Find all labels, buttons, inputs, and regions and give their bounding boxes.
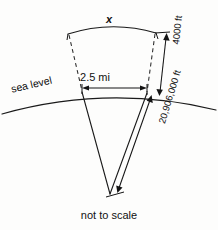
wedge-side-right <box>110 93 147 194</box>
height-tick-top <box>155 32 170 33</box>
height-arrow-bottom <box>156 89 163 96</box>
chord-label: 2.5 mi <box>80 72 110 83</box>
diagram-canvas <box>0 0 218 230</box>
arc-top-label: x <box>106 14 112 25</box>
arc-top-right-tick <box>156 33 158 39</box>
wedge-side-left <box>82 92 110 194</box>
chord-arrow-left <box>82 85 89 90</box>
radius-tick-apex <box>106 192 124 197</box>
height-arrow-top <box>163 33 170 41</box>
figure-caption: not to scale <box>81 210 137 221</box>
figure-root: x 2.5 mi sea level 4000 ft 20,906,000 ft… <box>0 0 218 230</box>
arc-top-left-tick <box>67 34 68 40</box>
dashed-side-right <box>147 34 155 92</box>
height-dimension-line <box>160 38 166 92</box>
arc-sea-level <box>2 98 216 114</box>
arc-top-altitude <box>68 27 156 34</box>
radius-arrow-bottom <box>116 185 122 193</box>
chord-arrow-right <box>140 85 147 90</box>
radius-dimension-line <box>119 100 150 188</box>
